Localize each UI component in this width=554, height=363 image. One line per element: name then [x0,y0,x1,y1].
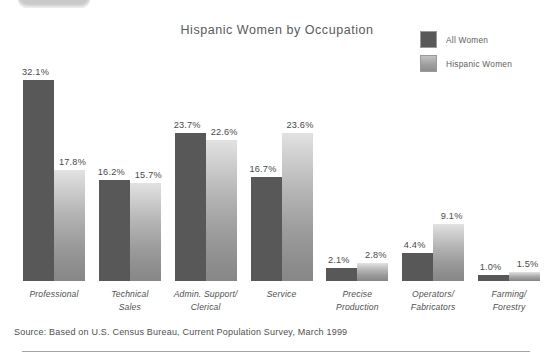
bar-value-label-hispanic-women: 17.8% [57,157,88,168]
bar-value-label-all-women: 23.7% [172,120,203,131]
bar-all-women[interactable] [251,177,282,281]
category-label-line: Farming/ [464,288,554,301]
source-note: Source: Based on U.S. Census Bureau, Cur… [14,327,347,337]
legend-label-all-women: All Women [446,35,488,45]
bar-value-label-hispanic-women: 1.5% [512,259,543,270]
bar-value-label-all-women: 4.4% [399,240,430,251]
bar-value-label-all-women: 16.2% [96,167,127,178]
bar-group: 1.0%1.5% [478,62,540,281]
bar-hispanic-women[interactable] [54,170,85,281]
bar-hispanic-women[interactable] [282,133,313,281]
bar-value-label-hispanic-women: 22.6% [209,127,240,138]
bar-group: 4.4%9.1% [402,62,464,281]
bar-hispanic-women[interactable] [357,263,388,281]
bar-value-label-all-women: 2.1% [323,255,354,266]
bar-hispanic-women[interactable] [509,272,540,281]
bar-all-women[interactable] [23,80,54,281]
bar-group: 32.1%17.8% [23,62,85,281]
bar-all-women[interactable] [478,275,509,281]
category-label-line: Forestry [464,301,554,314]
bar-value-label-hispanic-women: 9.1% [436,211,467,222]
bar-hispanic-women[interactable] [433,224,464,281]
bar-all-women[interactable] [99,180,130,281]
bar-pair [175,62,237,281]
bar-value-label-hispanic-women: 23.6% [285,120,316,131]
bar-value-label-all-women: 32.1% [20,67,51,78]
category-label: Farming/Forestry [464,288,554,313]
bar-group: 16.7%23.6% [251,62,313,281]
bar-value-label-hispanic-women: 15.7% [133,170,164,181]
category-label-line: Clerical [161,301,251,314]
bar-pair [326,62,388,281]
all-women-swatch-icon [420,31,437,48]
bottom-divider [22,351,530,352]
legend-item-all-women: All Women [420,30,546,49]
bar-value-label-hispanic-women: 2.8% [360,250,391,261]
bar-value-label-all-women: 1.0% [475,262,506,273]
bar-value-label-all-women: 16.7% [248,164,279,175]
bar-all-women[interactable] [402,253,433,281]
category-axis: ProfessionalTechnicalSalesAdmin. Support… [14,288,540,322]
bar-pair [478,62,540,281]
bar-all-women[interactable] [175,133,206,281]
bar-all-women[interactable] [326,268,357,281]
bar-pair [23,62,85,281]
chart-figure: Hispanic Women by Occupation All Women H… [0,0,554,363]
bar-hispanic-women[interactable] [206,140,237,281]
bar-group: 16.2%15.7% [99,62,161,281]
bar-group: 23.7%22.6% [175,62,237,281]
corner-tab-artifact [18,0,90,8]
plot-area: 32.1%17.8%16.2%15.7%23.7%22.6%16.7%23.6%… [14,62,540,281]
bar-group: 2.1%2.8% [326,62,388,281]
bar-hispanic-women[interactable] [130,183,161,281]
